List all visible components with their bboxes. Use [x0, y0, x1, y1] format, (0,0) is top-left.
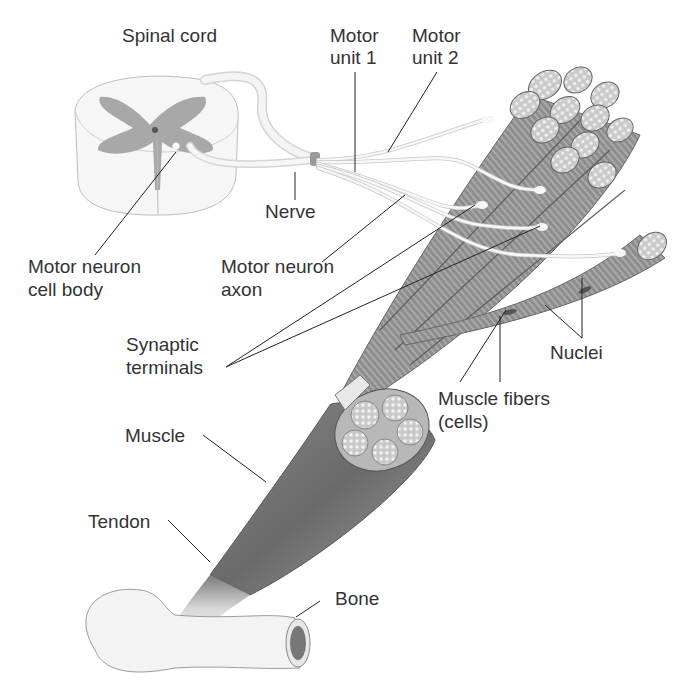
label-bone: Bone [335, 588, 379, 610]
label-muscle-fibers-line1: Muscle fibers [438, 388, 550, 410]
label-spinal-cord: Spinal cord [122, 25, 217, 47]
label-tendon: Tendon [88, 511, 150, 533]
label-nuclei: Nuclei [550, 342, 603, 364]
label-motor-neuron-axon-line2: axon [221, 279, 262, 301]
spinal-cord [75, 76, 238, 215]
label-motor-unit-1-line2: unit 1 [330, 47, 376, 69]
label-muscle: Muscle [125, 425, 185, 447]
label-motor-unit-2-line1: Motor [412, 25, 461, 47]
label-synaptic-terminals-line2: terminals [126, 357, 203, 379]
label-motor-neuron-cell-body-line1: Motor neuron [28, 256, 141, 278]
motor-unit-diagram: Spinal cord Motor unit 1 Motor unit 2 Ne… [0, 0, 690, 696]
label-motor-neuron-cell-body-line2: cell body [28, 279, 103, 301]
label-motor-unit-2-line2: unit 2 [412, 47, 458, 69]
label-motor-unit-1-line1: Motor [330, 25, 379, 47]
label-synaptic-terminals-line1: Synaptic [126, 334, 199, 356]
muscle [165, 375, 441, 650]
label-muscle-fibers-line2: (cells) [438, 411, 489, 433]
label-nerve: Nerve [265, 201, 316, 223]
label-motor-neuron-axon-line1: Motor neuron [221, 256, 334, 278]
